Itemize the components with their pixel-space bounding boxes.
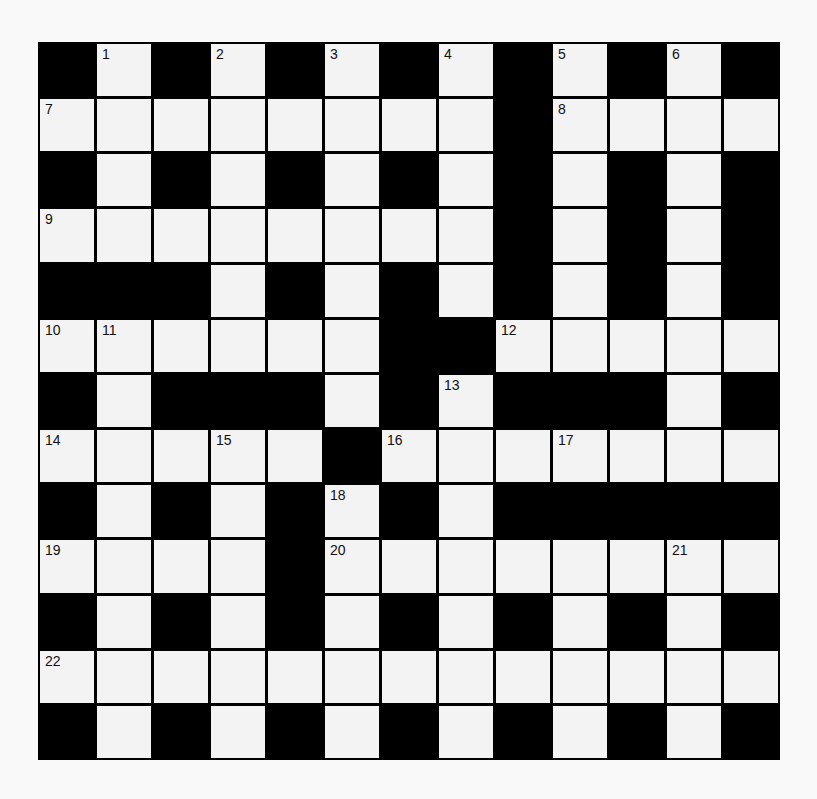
- answer-cell[interactable]: [268, 651, 322, 703]
- answer-cell[interactable]: [211, 320, 265, 372]
- answer-cell[interactable]: [325, 154, 379, 206]
- answer-cell[interactable]: [667, 651, 721, 703]
- answer-cell[interactable]: 11: [97, 320, 151, 372]
- answer-cell[interactable]: [97, 596, 151, 648]
- answer-cell[interactable]: [154, 540, 208, 592]
- answer-cell[interactable]: [439, 265, 493, 317]
- answer-cell[interactable]: [610, 651, 664, 703]
- answer-cell[interactable]: [211, 209, 265, 261]
- answer-cell[interactable]: [97, 430, 151, 482]
- answer-cell[interactable]: [325, 209, 379, 261]
- answer-cell[interactable]: [724, 430, 778, 482]
- answer-cell[interactable]: [553, 651, 607, 703]
- answer-cell[interactable]: [439, 706, 493, 758]
- answer-cell[interactable]: [610, 430, 664, 482]
- answer-cell[interactable]: [211, 651, 265, 703]
- answer-cell[interactable]: [268, 430, 322, 482]
- answer-cell[interactable]: [97, 540, 151, 592]
- answer-cell[interactable]: 13: [439, 375, 493, 427]
- answer-cell[interactable]: [667, 99, 721, 151]
- answer-cell[interactable]: [439, 540, 493, 592]
- answer-cell[interactable]: [724, 99, 778, 151]
- answer-cell[interactable]: [325, 99, 379, 151]
- answer-cell[interactable]: [667, 209, 721, 261]
- answer-cell[interactable]: [325, 265, 379, 317]
- answer-cell[interactable]: [610, 99, 664, 151]
- answer-cell[interactable]: 10: [40, 320, 94, 372]
- answer-cell[interactable]: [496, 651, 550, 703]
- answer-cell[interactable]: [154, 209, 208, 261]
- answer-cell[interactable]: [667, 320, 721, 372]
- answer-cell[interactable]: [325, 320, 379, 372]
- answer-cell[interactable]: [97, 375, 151, 427]
- answer-cell[interactable]: [439, 651, 493, 703]
- answer-cell[interactable]: 8: [553, 99, 607, 151]
- answer-cell[interactable]: 18: [325, 485, 379, 537]
- answer-cell[interactable]: [553, 706, 607, 758]
- answer-cell[interactable]: 9: [40, 209, 94, 261]
- answer-cell[interactable]: [724, 320, 778, 372]
- answer-cell[interactable]: 20: [325, 540, 379, 592]
- answer-cell[interactable]: [724, 540, 778, 592]
- answer-cell[interactable]: [496, 540, 550, 592]
- answer-cell[interactable]: [667, 265, 721, 317]
- answer-cell[interactable]: 5: [553, 44, 607, 96]
- answer-cell[interactable]: [268, 209, 322, 261]
- answer-cell[interactable]: [97, 154, 151, 206]
- answer-cell[interactable]: [97, 209, 151, 261]
- answer-cell[interactable]: [325, 596, 379, 648]
- answer-cell[interactable]: [496, 430, 550, 482]
- answer-cell[interactable]: [610, 540, 664, 592]
- answer-cell[interactable]: [97, 651, 151, 703]
- answer-cell[interactable]: [154, 651, 208, 703]
- answer-cell[interactable]: [667, 596, 721, 648]
- answer-cell[interactable]: [667, 430, 721, 482]
- answer-cell[interactable]: [667, 154, 721, 206]
- answer-cell[interactable]: 12: [496, 320, 550, 372]
- answer-cell[interactable]: 17: [553, 430, 607, 482]
- answer-cell[interactable]: [211, 540, 265, 592]
- answer-cell[interactable]: [382, 209, 436, 261]
- answer-cell[interactable]: 16: [382, 430, 436, 482]
- answer-cell[interactable]: [211, 265, 265, 317]
- answer-cell[interactable]: [154, 99, 208, 151]
- answer-cell[interactable]: [553, 209, 607, 261]
- answer-cell[interactable]: 22: [40, 651, 94, 703]
- answer-cell[interactable]: [553, 154, 607, 206]
- answer-cell[interactable]: 4: [439, 44, 493, 96]
- answer-cell[interactable]: 3: [325, 44, 379, 96]
- answer-cell[interactable]: [382, 540, 436, 592]
- answer-cell[interactable]: [382, 99, 436, 151]
- answer-cell[interactable]: [439, 430, 493, 482]
- answer-cell[interactable]: [154, 430, 208, 482]
- answer-cell[interactable]: 15: [211, 430, 265, 482]
- answer-cell[interactable]: [439, 154, 493, 206]
- answer-cell[interactable]: [268, 320, 322, 372]
- answer-cell[interactable]: [610, 320, 664, 372]
- answer-cell[interactable]: [325, 375, 379, 427]
- answer-cell[interactable]: [97, 706, 151, 758]
- answer-cell[interactable]: [211, 485, 265, 537]
- answer-cell[interactable]: [553, 265, 607, 317]
- answer-cell[interactable]: 7: [40, 99, 94, 151]
- answer-cell[interactable]: [439, 485, 493, 537]
- answer-cell[interactable]: [211, 99, 265, 151]
- answer-cell[interactable]: 1: [97, 44, 151, 96]
- answer-cell[interactable]: [439, 99, 493, 151]
- answer-cell[interactable]: 14: [40, 430, 94, 482]
- answer-cell[interactable]: [439, 596, 493, 648]
- answer-cell[interactable]: [553, 596, 607, 648]
- answer-cell[interactable]: [724, 651, 778, 703]
- answer-cell[interactable]: 2: [211, 44, 265, 96]
- answer-cell[interactable]: [382, 651, 436, 703]
- answer-cell[interactable]: [211, 596, 265, 648]
- answer-cell[interactable]: 21: [667, 540, 721, 592]
- answer-cell[interactable]: [211, 154, 265, 206]
- answer-cell[interactable]: [325, 651, 379, 703]
- answer-cell[interactable]: 6: [667, 44, 721, 96]
- answer-cell[interactable]: [325, 706, 379, 758]
- answer-cell[interactable]: [553, 540, 607, 592]
- answer-cell[interactable]: [97, 99, 151, 151]
- answer-cell[interactable]: 19: [40, 540, 94, 592]
- answer-cell[interactable]: [667, 706, 721, 758]
